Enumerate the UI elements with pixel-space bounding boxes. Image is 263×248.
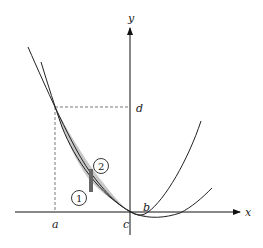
steep-parabola-curve (41, 62, 201, 215)
flat-parabola-curve (28, 47, 212, 217)
area-between-curves-diagram: y x d a c b 1 2 (0, 0, 263, 248)
representative-strip (89, 169, 93, 192)
label-y-axis: y (127, 12, 135, 25)
label-b: b (143, 201, 150, 214)
label-x-axis: x (245, 206, 252, 219)
region-marker-1-label: 1 (76, 193, 82, 204)
region-marker-2-label: 2 (98, 161, 104, 172)
label-d: d (136, 102, 143, 115)
label-c: c (123, 218, 129, 231)
diagram-canvas: y x d a c b 1 2 (0, 0, 263, 248)
label-a: a (52, 218, 59, 231)
